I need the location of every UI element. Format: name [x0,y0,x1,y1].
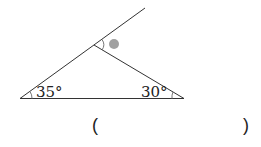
exterior-angle-marker [109,39,119,49]
angle-label-35: 35° [36,83,63,101]
angle-label-30: 30° [141,83,168,101]
triangle-diagram [0,0,261,147]
answer-open-paren: ( [92,115,98,136]
left-angle-arc [30,92,32,99]
answer-close-paren: ) [243,115,249,136]
right-side [94,45,184,99]
right-angle-arc [172,92,173,99]
exterior-angle-arc [102,40,104,51]
